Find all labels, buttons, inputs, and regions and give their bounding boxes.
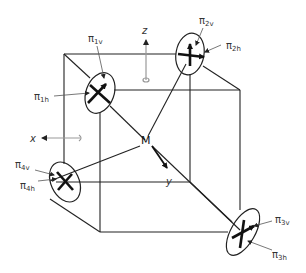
detector-4-v-leader: [35, 170, 54, 175]
ray-m-1: [110, 106, 145, 140]
ray-m-2: [148, 64, 186, 136]
detector-2-v-leader: [196, 28, 203, 45]
detector-3-h-label: π3h: [272, 249, 287, 262]
detector-1: π1v π1h: [34, 33, 120, 118]
detector-2-h-leader: [205, 45, 221, 52]
detector-3-h-leader: [248, 241, 272, 250]
detector-1-h-leader: [54, 93, 89, 96]
rays: [50, 64, 240, 230]
z-axis-label: z: [141, 25, 148, 36]
cube-edge-depth-bottom-left: [50, 199, 100, 232]
detector-1-h-label: π1h: [34, 91, 49, 104]
detector-4-h-label: π4h: [20, 180, 35, 193]
detector-2-polarizer-h: [178, 54, 204, 57]
detector-3-v-leader: [254, 221, 272, 226]
detector-3-v-label: π3v: [275, 214, 290, 227]
center-label-m: M: [141, 134, 151, 147]
cube-edge-depth-top-right: [203, 66, 240, 90]
y-axis-label: y: [165, 176, 173, 187]
detector-2-v-label: π2v: [199, 15, 214, 28]
detector-1-v-label: π1v: [88, 33, 103, 46]
detector-1-polarizer-h: [90, 85, 110, 103]
cube-edge-depth-top-left: [64, 54, 90, 78]
axes: z x y: [29, 25, 173, 187]
y-axis-arrow: [152, 146, 167, 168]
cube-diagram: z x y M π1v π1h π2v π2h π3v π3h: [0, 0, 306, 273]
detector-3: π3v π3h: [220, 203, 290, 262]
detector-4-v-label: π4v: [15, 159, 30, 172]
detector-2-h-label: π2h: [226, 40, 241, 53]
ray-m-3: [152, 146, 240, 230]
x-axis-label: x: [29, 133, 36, 144]
